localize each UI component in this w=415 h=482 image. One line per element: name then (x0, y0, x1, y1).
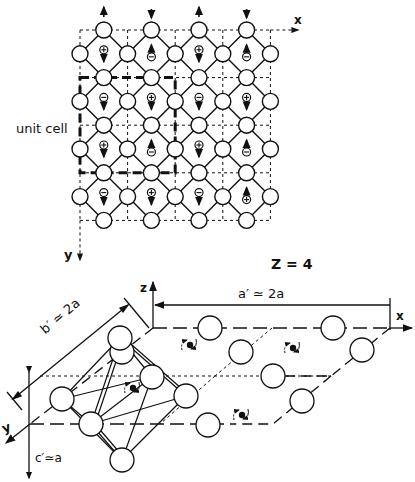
spin-dot-icon (234, 409, 249, 420)
top-x-axis-label: x (294, 14, 302, 26)
anion-atom (239, 22, 255, 38)
anion-atom (262, 93, 278, 109)
anion-atom (143, 165, 159, 181)
anion-atom (167, 141, 183, 157)
anion-atom (239, 165, 255, 181)
atom-sphere (110, 448, 134, 472)
anion-atom (96, 22, 112, 38)
atom-sphere (321, 316, 345, 340)
anion-atom (72, 46, 88, 62)
atom-sphere (79, 412, 103, 436)
top-y-axis-label: y (64, 248, 72, 261)
anion-atom (191, 70, 207, 86)
anion-atom (96, 212, 112, 228)
anion-atom (239, 212, 255, 228)
atom-sphere (198, 316, 222, 340)
anion-atom (191, 117, 207, 133)
atom-sphere (50, 387, 74, 411)
anion-atom (96, 165, 112, 181)
anion-atom (143, 117, 159, 133)
anion-atom (143, 70, 159, 86)
magnetic-ion-minus (243, 140, 251, 156)
c-prime-label: c′≃a (35, 452, 62, 464)
anion-atom (72, 141, 88, 157)
atom-sphere (261, 364, 285, 388)
anion-atom (262, 141, 278, 157)
anion-atom (167, 93, 183, 109)
anion-atom (215, 141, 231, 157)
magnetic-ion-minus (195, 93, 203, 109)
anion-atom (96, 117, 112, 133)
anion-atom (143, 22, 159, 38)
unit-cell-label: unit cell (16, 122, 68, 135)
magnetic-ion-minus (100, 189, 108, 205)
atom-sphere (140, 365, 164, 389)
spin-dot-icon (285, 342, 300, 353)
magnetic-ion-plus (243, 188, 251, 204)
magnetic-ion-minus (147, 45, 155, 61)
anion-atom (215, 189, 231, 205)
anion-atom (215, 93, 231, 109)
anion-atom (143, 212, 159, 228)
anion-atom (191, 165, 207, 181)
anion-atom (239, 117, 255, 133)
anion-atom (215, 46, 231, 62)
anion-atom (120, 93, 136, 109)
z-axis-label: z (140, 282, 147, 294)
magnetic-ion-plus (147, 189, 155, 205)
magnetic-ion-plus (100, 141, 108, 157)
b-prime-end-tick-2 (124, 298, 149, 328)
anion-atom (191, 212, 207, 228)
anion-atom (239, 70, 255, 86)
anion-atom (120, 46, 136, 62)
anion-atom (120, 141, 136, 157)
atom-spheres-3d (50, 316, 374, 472)
magnetic-ion-minus (147, 140, 155, 156)
anion-atom (72, 189, 88, 205)
anion-atom (191, 22, 207, 38)
anion-atom (167, 46, 183, 62)
magnetic-ion-plus (100, 46, 108, 62)
atom-sphere (174, 384, 198, 408)
anion-atom (262, 189, 278, 205)
atom-sphere (108, 326, 132, 350)
magnetic-ion-plus (243, 93, 251, 109)
formula-units-label: Z = 4 (271, 257, 312, 271)
anion-atom (262, 46, 278, 62)
a-prime-label: a′ ≃ 2a (238, 287, 284, 300)
magnetic-ion-minus (243, 45, 251, 61)
anion-atom (167, 189, 183, 205)
top-lattice-panel (72, 7, 298, 260)
atom-sphere (229, 340, 253, 364)
magnetic-ion-minus (195, 189, 203, 205)
atom-sphere (350, 338, 374, 362)
atom-sphere (196, 413, 220, 437)
magnetic-ion-minus (100, 93, 108, 109)
x-axis-label: x (396, 310, 404, 322)
magnetic-ion-plus (195, 46, 203, 62)
magnetic-ion-plus (147, 93, 155, 109)
lattice-figure (0, 0, 415, 482)
anion-atom (72, 93, 88, 109)
magnetic-ion-plus (195, 141, 203, 157)
spin-dot-icon (182, 339, 197, 350)
atom-sphere (290, 389, 314, 413)
anion-atom (96, 70, 112, 86)
anion-atom (120, 189, 136, 205)
